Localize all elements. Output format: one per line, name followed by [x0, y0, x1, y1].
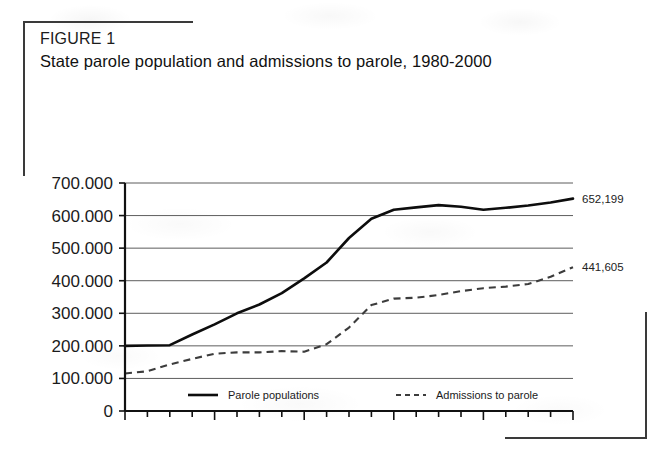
frame-border-bottom: [505, 437, 647, 439]
line-chart: 0100.000200.000300.000400.000500.000600.…: [0, 80, 669, 420]
data-series: [125, 199, 573, 374]
series-end-value-label: 441,605: [582, 261, 624, 273]
frame-border-top: [23, 21, 193, 23]
chart-container: 0100.000200.000300.000400.000500.000600.…: [0, 80, 669, 420]
series-line-solid: [125, 199, 573, 346]
x-axis-tickmarks: [125, 411, 573, 420]
chart-legend: Parole populationsAdmissions to parole: [188, 389, 538, 401]
y-tick-label: 700.000: [52, 174, 113, 193]
y-tick-label: 500.000: [52, 239, 113, 258]
y-tick-label: 0: [104, 402, 113, 420]
y-tick-label: 300.000: [52, 304, 113, 323]
series-end-value-label: 652,199: [582, 193, 624, 205]
y-tick-label: 400.000: [52, 272, 113, 291]
y-tick-label: 600.000: [52, 207, 113, 226]
y-axis-tick-labels: 0100.000200.000300.000400.000500.000600.…: [52, 174, 113, 420]
legend-label: Admissions to parole: [436, 389, 538, 401]
y-tick-label: 200.000: [52, 337, 113, 356]
series-end-labels: 652,199441,605: [582, 193, 624, 274]
y-tick-label: 100.000: [52, 369, 113, 388]
series-line-dashed: [125, 267, 573, 373]
figure-title: State parole population and admissions t…: [40, 52, 492, 71]
legend-label: Parole populations: [228, 389, 320, 401]
figure-label: FIGURE 1: [40, 30, 115, 48]
gridlines: [125, 183, 573, 378]
